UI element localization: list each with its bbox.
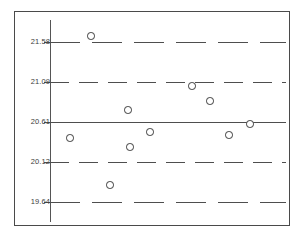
chart-frame — [14, 11, 290, 226]
